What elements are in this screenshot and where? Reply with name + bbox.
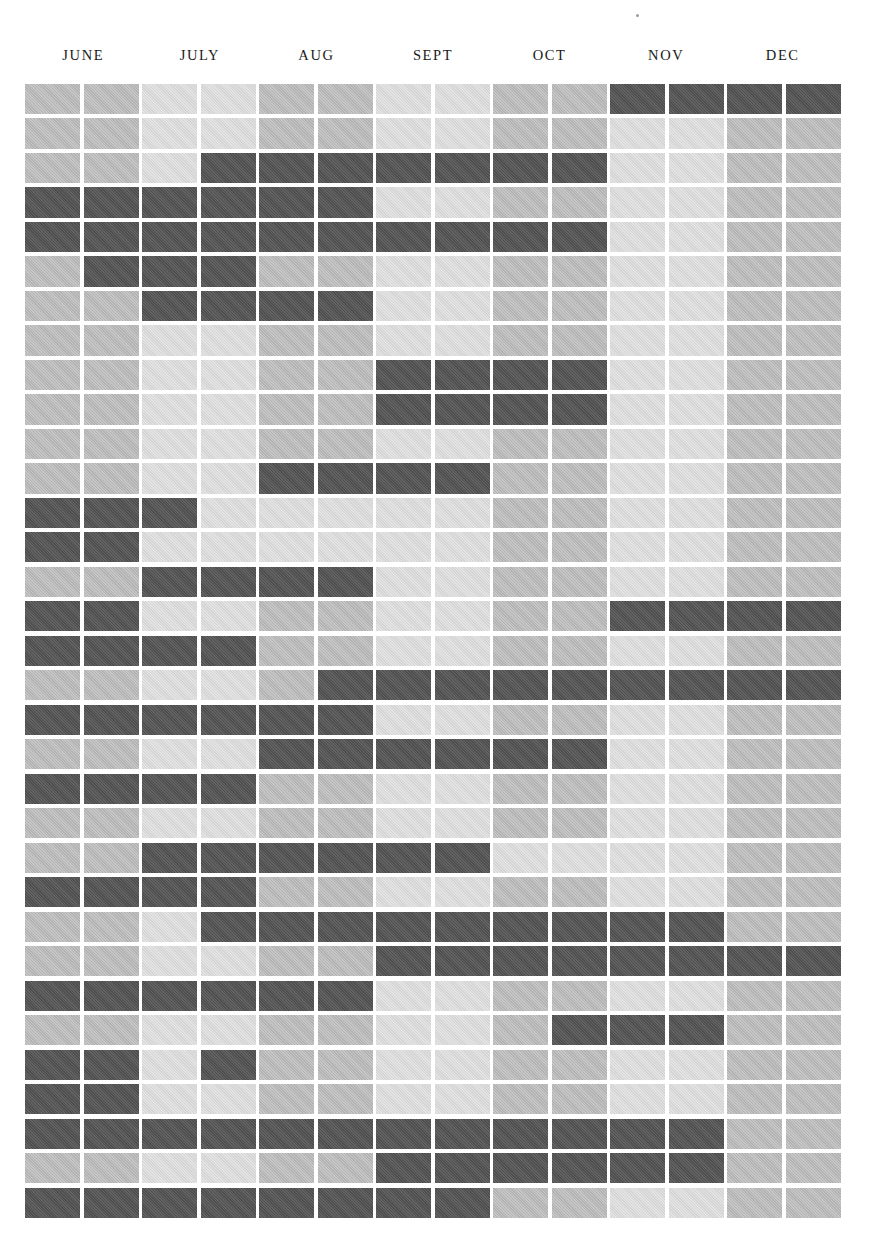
- heatmap-cell: [493, 463, 548, 493]
- month-label-dec: DEC: [724, 42, 841, 68]
- heatmap-cell: [318, 774, 373, 804]
- heatmap-cell: [727, 601, 782, 631]
- heatmap-cell: [727, 739, 782, 769]
- heatmap-cell: [142, 291, 197, 321]
- heatmap-cell: [435, 429, 490, 459]
- heatmap-cell: [552, 394, 607, 424]
- heatmap-cell: [318, 291, 373, 321]
- heatmap-cell: [727, 394, 782, 424]
- heatmap-cell: [259, 153, 314, 183]
- heatmap-cell: [25, 187, 80, 217]
- heatmap-cell: [610, 429, 665, 459]
- heatmap-cell: [318, 808, 373, 838]
- heatmap-cell: [84, 774, 139, 804]
- heatmap-cell: [786, 1188, 841, 1218]
- heatmap-cell: [376, 256, 431, 286]
- heatmap-cell: [669, 877, 724, 907]
- heatmap-cell: [84, 1084, 139, 1114]
- heatmap-cell: [493, 946, 548, 976]
- heatmap-cell: [201, 567, 256, 597]
- heatmap-cell: [84, 429, 139, 459]
- heatmap-cell: [259, 118, 314, 148]
- heatmap-cell: [435, 636, 490, 666]
- heatmap-cell: [84, 118, 139, 148]
- heatmap-cell: [142, 429, 197, 459]
- heatmap-cell: [610, 877, 665, 907]
- heatmap-cell: [669, 670, 724, 700]
- heatmap-cell: [493, 705, 548, 735]
- heatmap-cell: [142, 84, 197, 114]
- heatmap-cell: [201, 981, 256, 1011]
- heatmap-cell: [786, 256, 841, 286]
- heatmap-cell: [259, 187, 314, 217]
- heatmap-cell: [376, 1119, 431, 1149]
- heatmap-cell: [201, 1188, 256, 1218]
- heatmap-cell: [84, 1188, 139, 1218]
- heatmap-cell: [318, 325, 373, 355]
- heatmap-cell: [435, 739, 490, 769]
- heatmap-cell: [259, 222, 314, 252]
- heatmap-cell: [376, 946, 431, 976]
- heatmap-cell: [669, 601, 724, 631]
- heatmap-cell: [786, 946, 841, 976]
- heatmap-cell: [376, 84, 431, 114]
- heatmap-cell: [669, 532, 724, 562]
- heatmap-cell: [376, 1050, 431, 1080]
- heatmap-cell: [376, 291, 431, 321]
- heatmap-cell: [259, 946, 314, 976]
- heatmap-cell: [786, 912, 841, 942]
- heatmap-cell: [25, 360, 80, 390]
- heatmap-cell: [435, 498, 490, 528]
- heatmap-cell: [84, 601, 139, 631]
- heatmap-cell: [610, 1119, 665, 1149]
- heatmap-cell: [493, 739, 548, 769]
- heatmap-cell: [259, 1050, 314, 1080]
- heatmap-cell: [201, 222, 256, 252]
- heatmap-cell: [201, 532, 256, 562]
- heatmap-cell: [669, 498, 724, 528]
- heatmap-cell: [25, 498, 80, 528]
- heatmap-cell: [786, 808, 841, 838]
- heatmap-cell: [435, 1084, 490, 1114]
- heatmap-cell: [25, 1015, 80, 1045]
- heatmap-cell: [435, 256, 490, 286]
- heatmap-cell: [610, 187, 665, 217]
- heatmap-cell: [259, 670, 314, 700]
- heatmap-cell: [493, 84, 548, 114]
- heatmap-cell: [259, 1153, 314, 1183]
- heatmap-cell: [318, 256, 373, 286]
- heatmap-cell: [376, 463, 431, 493]
- heatmap-cell: [259, 463, 314, 493]
- heatmap-cell: [669, 1084, 724, 1114]
- heatmap-cell: [435, 567, 490, 597]
- heatmap-cell: [318, 187, 373, 217]
- heatmap-cell: [84, 153, 139, 183]
- heatmap-cell: [669, 222, 724, 252]
- heatmap-cell: [493, 118, 548, 148]
- heatmap-cell: [142, 256, 197, 286]
- heatmap-cell: [552, 463, 607, 493]
- heatmap-cell: [610, 394, 665, 424]
- heatmap-cell: [727, 946, 782, 976]
- heatmap-cell: [84, 1015, 139, 1045]
- heatmap-cell: [435, 877, 490, 907]
- heatmap-cell: [786, 774, 841, 804]
- heatmap-cell: [318, 222, 373, 252]
- heatmap-cell: [552, 601, 607, 631]
- heatmap-cell: [493, 636, 548, 666]
- heatmap-cell: [142, 946, 197, 976]
- heatmap-cell: [610, 981, 665, 1011]
- heatmap-cell: [259, 325, 314, 355]
- heatmap-cell: [84, 877, 139, 907]
- heatmap-cell: [552, 636, 607, 666]
- heatmap-cell: [84, 981, 139, 1011]
- heatmap-cell: [493, 877, 548, 907]
- heatmap-cell: [25, 670, 80, 700]
- heatmap-cell: [84, 360, 139, 390]
- heatmap-cell: [201, 429, 256, 459]
- heatmap-cell: [318, 84, 373, 114]
- heatmap-cell: [259, 1015, 314, 1045]
- heatmap-cell: [552, 498, 607, 528]
- heatmap-cell: [201, 705, 256, 735]
- heatmap-cell: [259, 877, 314, 907]
